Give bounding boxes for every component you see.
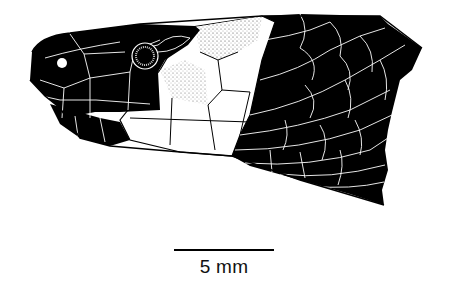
snake-head-illustration — [0, 0, 449, 281]
scale-bar — [174, 249, 274, 251]
scale-bar-label: 5 mm — [174, 256, 274, 278]
nostril — [57, 58, 67, 68]
